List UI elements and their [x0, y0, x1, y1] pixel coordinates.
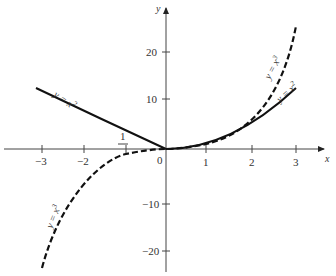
- svg-text:y = x3: y = x3: [42, 202, 63, 230]
- svg-text:y = x2: y = x2: [51, 87, 79, 112]
- tick-x-1: 1: [203, 156, 209, 168]
- label-x3-lower: y = x3: [42, 202, 63, 230]
- svg-text:y = x2: y = x2: [273, 79, 300, 105]
- tick-y-neg10: −10: [142, 198, 160, 210]
- chart: x y −3 −2 0 1 2 3 20 10 −10 −20 1 y = x2…: [0, 0, 336, 276]
- tick-y-neg20: −20: [142, 245, 160, 257]
- curve-x-cubed: [42, 26, 296, 268]
- tick-y-20: 20: [146, 46, 158, 58]
- svg-text:y = x3: y = x3: [261, 54, 284, 82]
- tick-y-10: 10: [146, 93, 158, 105]
- label-x2-left: y = x2: [51, 87, 79, 112]
- y-axis-label: y: [155, 3, 161, 14]
- point-label: 1: [120, 130, 126, 142]
- label-x3-upper: y = x3: [261, 54, 284, 82]
- label-x2-right: y = x2: [273, 79, 300, 105]
- tick-x-neg2: −2: [77, 155, 89, 167]
- tick-x-0: 0: [157, 154, 163, 166]
- tick-x-3: 3: [293, 156, 299, 168]
- tick-x-neg3: −3: [35, 155, 47, 167]
- tick-x-2: 2: [249, 156, 255, 168]
- x-axis-label: x: [324, 153, 330, 164]
